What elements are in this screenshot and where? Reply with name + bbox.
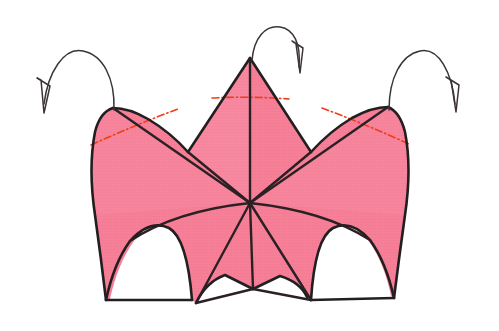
origami-diagram-figure: Origami crown / lily base folding diagra…: [0, 0, 499, 331]
origami-diagram-svg: Origami crown / lily base folding diagra…: [0, 0, 499, 331]
